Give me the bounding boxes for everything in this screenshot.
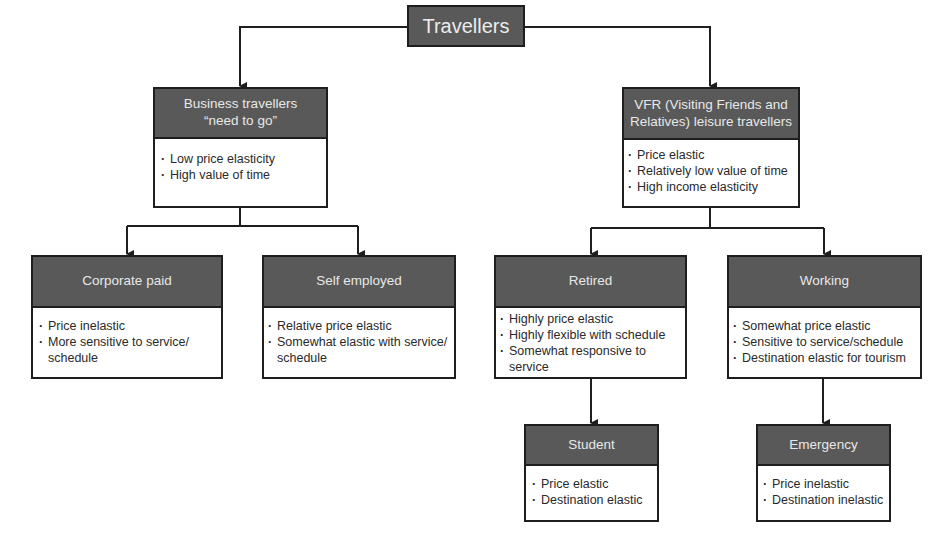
vfr-travellers-header: VFR (Visiting Friends and Relatives) lei… — [624, 89, 798, 140]
working-body: Somewhat price elastic Sensitive to serv… — [729, 308, 920, 366]
self-employed-title: Self employed — [316, 273, 402, 290]
bullet-item: Highly flexible with schedule — [500, 327, 685, 343]
student-title: Student — [568, 437, 615, 454]
self-employed-header: Self employed — [264, 257, 454, 308]
travellers-label: Travellers — [422, 15, 509, 38]
corporate-paid-body: Price inelastic More sensitive to servic… — [33, 308, 221, 366]
emergency-body: Price inelastic Destination inelastic — [758, 466, 889, 508]
business-travellers-header: Business travellers “need to go” — [155, 89, 326, 139]
corporate-paid-title: Corporate paid — [82, 273, 171, 290]
vfr-travellers-body: Price elastic Relatively low value of ti… — [624, 140, 798, 195]
student-body: Price elastic Destination elastic — [526, 466, 657, 508]
bullet-item: Price elastic — [628, 147, 798, 163]
bullet-item: Price elastic — [532, 476, 657, 492]
corporate-paid-header: Corporate paid — [33, 257, 221, 308]
self-employed-node: Self employed Relative price elastic Som… — [262, 255, 456, 379]
corporate-paid-node: Corporate paid Price inelastic More sens… — [31, 255, 223, 379]
bullet-item: Somewhat responsive to service — [500, 343, 669, 375]
bullet-item: Destination inelastic — [763, 492, 889, 508]
bullet-item: Destination elastic — [532, 492, 657, 508]
retired-node: Retired Highly price elastic Highly flex… — [494, 255, 687, 379]
business-travellers-body: Low price elasticity High value of time — [155, 139, 326, 183]
student-header: Student — [526, 426, 657, 466]
vfr-title-line1: VFR (Visiting Friends and — [634, 97, 788, 114]
vfr-travellers-node: VFR (Visiting Friends and Relatives) lei… — [622, 87, 800, 208]
bullet-item: Relatively low value of time — [628, 163, 798, 179]
bullet-item: Sensitive to service/schedule — [733, 334, 920, 350]
bullet-item: Relative price elastic — [268, 318, 454, 334]
business-travellers-node: Business travellers “need to go” Low pri… — [153, 87, 328, 208]
bullet-item: High value of time — [161, 167, 326, 183]
bullet-item: Price inelastic — [39, 318, 221, 334]
bullet-item: Highly price elastic — [500, 311, 685, 327]
student-node: Student Price elastic Destination elasti… — [524, 424, 659, 522]
working-title: Working — [800, 273, 849, 290]
working-node: Working Somewhat price elastic Sensitive… — [727, 255, 922, 379]
self-employed-body: Relative price elastic Somewhat elastic … — [264, 308, 454, 366]
bullet-item: Price inelastic — [763, 476, 889, 492]
business-title-line2: “need to go” — [204, 113, 277, 130]
bullet-item: Low price elasticity — [161, 151, 326, 167]
retired-title: Retired — [569, 273, 613, 290]
bullet-item: Destination elastic for tourism — [733, 350, 920, 366]
emergency-node: Emergency Price inelastic Destination in… — [756, 424, 891, 522]
bullet-item: Somewhat elastic with service/ schedule — [268, 334, 461, 366]
business-title-line1: Business travellers — [184, 96, 297, 113]
vfr-title-line2: Relatives) leisure travellers — [630, 114, 792, 131]
bullet-item: Somewhat price elastic — [733, 318, 920, 334]
emergency-header: Emergency — [758, 426, 889, 466]
travellers-root-node: Travellers — [407, 5, 525, 47]
bullet-item: High income elasticity — [628, 179, 798, 195]
working-header: Working — [729, 257, 920, 308]
retired-header: Retired — [496, 257, 685, 308]
retired-body: Highly price elastic Highly flexible wit… — [496, 308, 685, 375]
emergency-title: Emergency — [789, 437, 857, 454]
bullet-item: More sensitive to service/ schedule — [39, 334, 213, 366]
